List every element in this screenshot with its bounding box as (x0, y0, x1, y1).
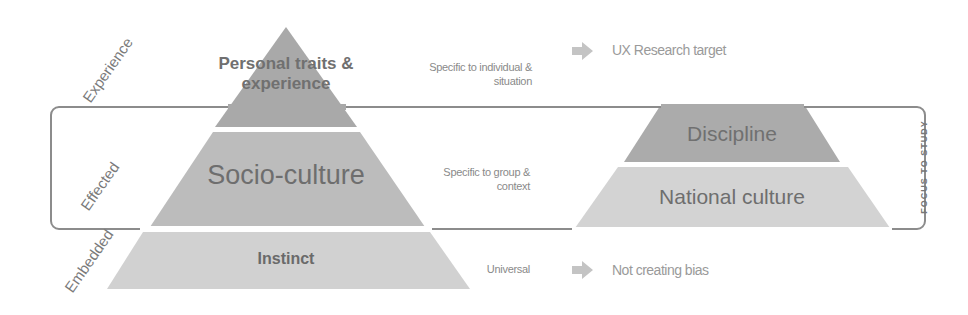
personal-traits-line1: Personal traits & (196, 54, 376, 74)
discipline-label: Discipline (632, 122, 832, 146)
note-group-line1: Specific to group & (380, 165, 530, 179)
box-gap-top-left (228, 104, 346, 110)
socio-culture-label: Socio-culture (186, 160, 386, 191)
note-individual-line2: situation (360, 74, 532, 88)
national-culture-label: National culture (632, 185, 832, 209)
arrow-icon (572, 42, 593, 60)
note-individual: Specific to individual & situation (360, 60, 532, 88)
personal-traits-label: Personal traits & experience (196, 54, 376, 94)
note-individual-line1: Specific to individual & (360, 60, 532, 74)
instinct-label: Instinct (236, 250, 336, 268)
box-gap-top-right (661, 104, 804, 110)
note-universal: Universal (420, 262, 530, 276)
ux-research-target-text: UX Research target (612, 42, 726, 58)
note-group: Specific to group & context (380, 165, 530, 193)
note-group-line2: context (380, 179, 530, 193)
not-creating-bias-text: Not creating bias (612, 262, 709, 278)
focus-to-study-label: FOCUS TO STUDY (919, 107, 929, 227)
box-gap-bottom-right (572, 227, 892, 233)
personal-traits-line2: experience (196, 74, 376, 94)
arrow-icon (572, 261, 593, 279)
box-gap-bottom-left (140, 226, 432, 232)
